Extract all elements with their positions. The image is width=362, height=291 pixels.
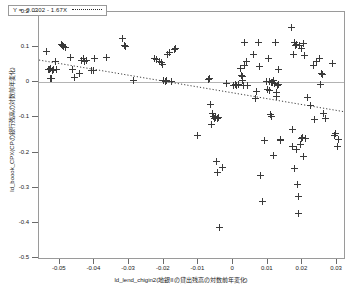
x-tick-label: -0.03 [121,265,135,271]
legend-line-swatch [72,9,102,11]
regression-line [39,12,344,258]
y-tick-mark [32,46,38,47]
x-tick-mark [197,259,198,264]
x-tick-mark [93,259,94,264]
scatter-chart: Y = -0.0302 - 1.67X 0.20.10-0.1-0.2-0.3-… [0,0,362,291]
y-tick-label: 0 [26,78,29,84]
y-tick-label: -0.5 [19,254,29,260]
y-tick-label: 0.1 [21,43,29,49]
x-tick-label: -0.01 [191,265,205,271]
x-tick-mark [301,259,302,264]
y-tick-mark [32,11,38,12]
x-tick-mark [163,259,164,264]
y-tick-label: -0.4 [19,219,29,225]
x-tick-label: -0.05 [52,265,66,271]
y-tick-label: -0.2 [19,149,29,155]
x-tick-label: 0 [230,265,233,271]
x-tick-label: 0.02 [296,265,308,271]
x-tick-mark [232,259,233,264]
x-tick-label: -0.02 [156,265,170,271]
y-tick-mark [32,116,38,117]
x-tick-label: 0.01 [261,265,273,271]
y-tick-mark [32,187,38,188]
y-tick-mark [32,81,38,82]
y-tick-mark [32,152,38,153]
y-tick-label: 0.2 [21,8,29,14]
y-tick-mark [32,222,38,223]
plot-area [38,11,345,259]
x-tick-mark [267,259,268,264]
y-axis-title: ld_boook_CPX(CPの銀行残高の対数前年変化) [7,6,16,254]
x-tick-mark [336,259,337,264]
x-tick-mark [59,259,60,264]
x-tick-mark [128,259,129,264]
x-tick-label: 0.03 [330,265,342,271]
x-axis-title: ld_lend_chigin2(地銀IIの貸出残高の対数前年変化) [0,275,362,284]
y-tick-label: -0.3 [19,184,29,190]
y-tick-mark [32,257,38,258]
x-tick-label: -0.04 [87,265,101,271]
y-tick-label: -0.1 [19,113,29,119]
